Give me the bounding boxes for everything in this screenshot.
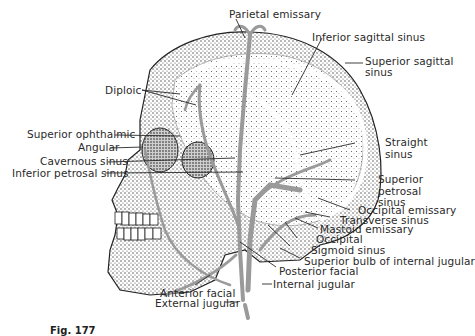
- label-superior-sagittal-sinus-2: sinus: [365, 67, 393, 78]
- label-superior-petrosal-sinus: Superior: [378, 174, 423, 185]
- label-angular: Angular: [78, 142, 120, 153]
- label-cavernous-sinus: Cavernous sinus: [40, 156, 128, 167]
- label-parietal-emissary: Parietal emissary: [229, 9, 321, 20]
- label-superior-ophthalmic: Superior ophthalmic: [27, 129, 135, 140]
- label-straight-sinus: Straight: [385, 137, 428, 148]
- label-inferior-sagittal-sinus: Inferior sagittal sinus: [312, 32, 425, 43]
- label-posterior-facial: Posterior facial: [279, 266, 359, 277]
- label-internal-jugular: Internal jugular: [273, 279, 355, 290]
- label-straight-sinus-2: sinus: [385, 149, 413, 160]
- figure-caption: Fig. 177: [50, 325, 96, 336]
- label-external-jugular: External jugular: [155, 298, 240, 309]
- label-diploic: Diploic: [105, 85, 141, 96]
- label-inferior-petrosal-sinus: Inferior petrosal sinus: [12, 168, 129, 179]
